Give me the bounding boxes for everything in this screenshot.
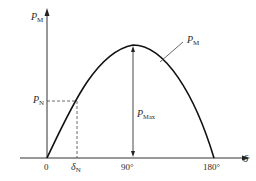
pmax-label: PMax [136, 108, 156, 120]
y-axis-arrow-icon [45, 8, 50, 16]
tick-label-90: 90° [121, 162, 134, 172]
tick-label-0: 0 [44, 162, 49, 172]
power-angle-diagram: PM PM PMax PN 0 δN 90° 180° δ [0, 0, 256, 181]
y-axis-label: PM [30, 11, 44, 24]
pmax-arrow-up-icon [131, 46, 135, 52]
pn-label: PN [32, 94, 44, 107]
pmax-arrow-down-icon [131, 151, 135, 157]
x-axis-label: δ [243, 152, 249, 164]
curve-label-leader [160, 42, 183, 62]
tick-label-180: 180° [203, 162, 221, 172]
power-curve [47, 45, 214, 158]
curve-label: PM [186, 34, 200, 47]
tick-label-deltan: δN [71, 161, 81, 174]
